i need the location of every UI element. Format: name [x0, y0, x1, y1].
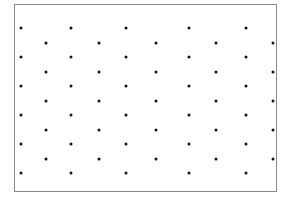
scatter-dot: [245, 172, 248, 175]
scatter-dot: [245, 143, 248, 146]
scatter-dot: [125, 143, 128, 146]
plot-frame: [14, 4, 277, 192]
scatter-dot: [125, 56, 128, 59]
scatter-dot: [272, 158, 275, 161]
scatter-dot: [45, 71, 48, 74]
scatter-dot: [98, 42, 101, 45]
scatter-dot: [98, 100, 101, 103]
scatter-dot: [272, 129, 275, 132]
scatter-dot: [45, 100, 48, 103]
scatter-dot: [20, 172, 23, 175]
scatter-dot: [70, 114, 73, 117]
figure-canvas: [0, 0, 284, 209]
scatter-dot: [98, 158, 101, 161]
scatter-dot: [188, 143, 191, 146]
scatter-dot: [215, 158, 218, 161]
scatter-dot: [188, 27, 191, 30]
scatter-dot: [70, 56, 73, 59]
scatter-dot: [245, 27, 248, 30]
scatter-dot: [125, 85, 128, 88]
scatter-dot: [70, 143, 73, 146]
scatter-dot: [215, 129, 218, 132]
scatter-dot: [70, 85, 73, 88]
scatter-dot: [70, 172, 73, 175]
scatter-dot: [70, 27, 73, 30]
scatter-dot: [20, 143, 23, 146]
scatter-dot: [20, 85, 23, 88]
scatter-dot: [188, 56, 191, 59]
scatter-dot: [20, 27, 23, 30]
scatter-dot: [125, 27, 128, 30]
scatter-dot: [155, 129, 158, 132]
scatter-dot: [155, 100, 158, 103]
scatter-dot: [155, 158, 158, 161]
scatter-dot: [20, 56, 23, 59]
scatter-dot: [45, 129, 48, 132]
scatter-dot: [188, 85, 191, 88]
dot-scatter-layer: [15, 5, 276, 191]
scatter-dot: [272, 71, 275, 74]
scatter-dot: [245, 114, 248, 117]
scatter-dot: [125, 172, 128, 175]
scatter-dot: [155, 42, 158, 45]
scatter-dot: [98, 71, 101, 74]
scatter-dot: [215, 42, 218, 45]
scatter-dot: [215, 71, 218, 74]
scatter-dot: [98, 129, 101, 132]
scatter-dot: [155, 71, 158, 74]
scatter-dot: [45, 158, 48, 161]
scatter-dot: [272, 100, 275, 103]
scatter-dot: [188, 172, 191, 175]
scatter-dot: [215, 100, 218, 103]
scatter-dot: [45, 42, 48, 45]
scatter-dot: [125, 114, 128, 117]
scatter-dot: [272, 42, 275, 45]
scatter-dot: [245, 56, 248, 59]
scatter-dot: [20, 114, 23, 117]
scatter-dot: [188, 114, 191, 117]
scatter-dot: [245, 85, 248, 88]
